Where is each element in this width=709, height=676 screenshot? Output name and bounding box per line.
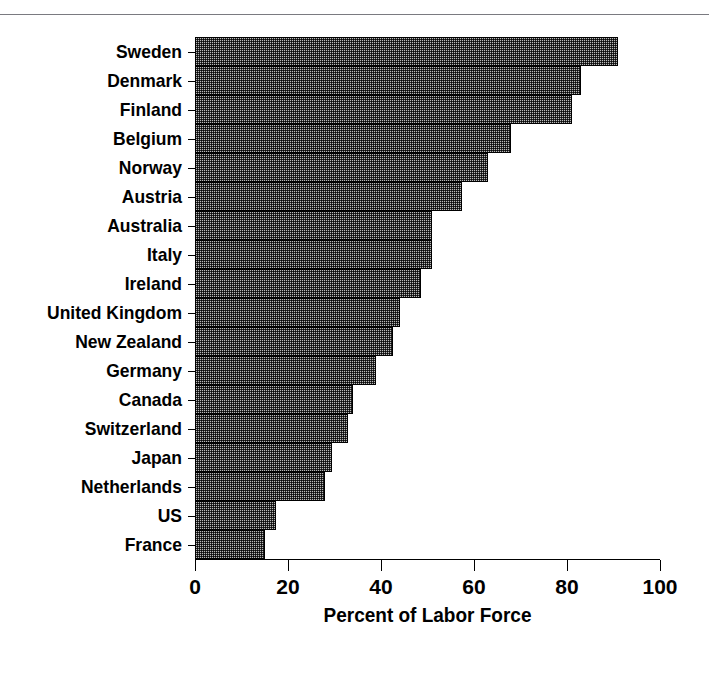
y-axis-label-france: France: [0, 535, 182, 554]
y-axis-tick: [188, 81, 196, 82]
y-axis-tick: [188, 458, 196, 459]
x-axis-tick: [288, 560, 289, 571]
bar-new-zealand: [195, 327, 393, 356]
bar-switzerland: [195, 414, 348, 443]
y-axis-tick: [188, 400, 196, 401]
y-axis-tick: [188, 197, 196, 198]
y-axis: [195, 37, 196, 559]
x-axis-tick-label: 60: [439, 576, 509, 598]
y-axis-tick: [188, 429, 196, 430]
y-axis-tick: [188, 168, 196, 169]
bar-norway: [195, 153, 488, 182]
bar-us: [195, 501, 276, 530]
y-axis-label-switzerland: Switzerland: [0, 419, 182, 438]
x-axis-tick-label: 100: [625, 576, 695, 598]
y-axis-label-japan: Japan: [0, 448, 182, 467]
x-axis-tick: [195, 560, 196, 571]
bar-ireland: [195, 269, 421, 298]
x-axis-title: Percent of Labor Force: [207, 604, 649, 627]
x-axis-tick-label: 40: [346, 576, 416, 598]
x-axis-tick-label: 20: [253, 576, 323, 598]
y-axis-label-italy: Italy: [0, 245, 182, 264]
bar-united-kingdom: [195, 298, 400, 327]
bar-austria: [195, 182, 462, 211]
y-axis-tick: [188, 371, 196, 372]
y-axis-label-united-kingdom: United Kingdom: [0, 303, 182, 322]
x-axis-tick-label: 0: [160, 576, 230, 598]
bar-canada: [195, 385, 353, 414]
y-axis-tick: [188, 313, 196, 314]
y-axis-label-new-zealand: New Zealand: [0, 332, 182, 351]
bar-germany: [195, 356, 376, 385]
bar-belgium: [195, 124, 511, 153]
bar-italy: [195, 240, 432, 269]
bar-chart: 020406080100 Percent of Labor Force Swed…: [0, 0, 709, 676]
x-axis-tick: [474, 560, 475, 571]
y-axis-label-us: US: [0, 506, 182, 525]
bar-denmark: [195, 66, 581, 95]
y-axis-label-belgium: Belgium: [0, 129, 182, 148]
x-axis: 020406080100: [195, 559, 660, 560]
x-axis-tick: [567, 560, 568, 571]
y-axis-label-sweden: Sweden: [0, 42, 182, 61]
y-axis-label-canada: Canada: [0, 390, 182, 409]
bar-australia: [195, 211, 432, 240]
x-axis-tick: [660, 560, 661, 571]
y-axis-label-denmark: Denmark: [0, 71, 182, 90]
y-axis-label-norway: Norway: [0, 158, 182, 177]
bar-finland: [195, 95, 572, 124]
bar-france: [195, 530, 265, 559]
x-axis-tick-label: 80: [532, 576, 602, 598]
y-axis-tick: [188, 255, 196, 256]
y-axis-tick: [188, 110, 196, 111]
y-axis-label-germany: Germany: [0, 361, 182, 380]
y-axis-label-netherlands: Netherlands: [0, 477, 182, 496]
y-axis-tick: [188, 284, 196, 285]
bar-japan: [195, 443, 332, 472]
y-axis-tick: [188, 226, 196, 227]
y-axis-tick: [188, 487, 196, 488]
y-axis-label-finland: Finland: [0, 100, 182, 119]
y-axis-tick: [188, 545, 196, 546]
y-axis-label-australia: Australia: [0, 216, 182, 235]
bar-sweden: [195, 37, 618, 66]
y-axis-tick: [188, 52, 196, 53]
y-axis-tick: [188, 516, 196, 517]
y-axis-label-ireland: Ireland: [0, 274, 182, 293]
y-axis-label-austria: Austria: [0, 187, 182, 206]
x-axis-tick: [381, 560, 382, 571]
y-axis-tick: [188, 139, 196, 140]
bar-netherlands: [195, 472, 325, 501]
y-axis-tick: [188, 342, 196, 343]
